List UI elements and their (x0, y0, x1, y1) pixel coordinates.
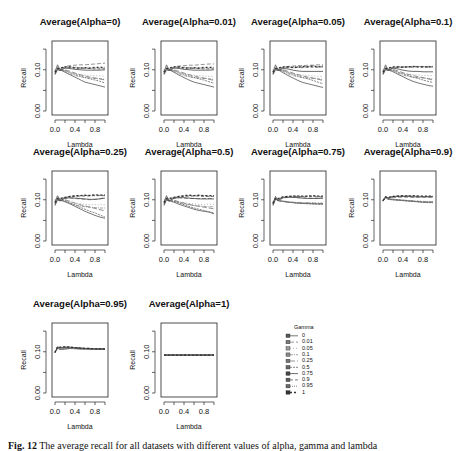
panel-title: Average(Alpha=0) (40, 16, 121, 27)
x-axis-label: Lambda (67, 423, 92, 430)
legend-label: 0.25 (302, 357, 313, 363)
legend-swatch (286, 384, 290, 388)
plot-frame (270, 41, 326, 115)
series-line (55, 63, 105, 74)
x-tick-label: 0.4 (288, 255, 298, 264)
legend-label: 0.95 (302, 382, 313, 388)
chart-panel: Average(Alpha=0.25)0.000.10Recall0.00.40… (20, 146, 127, 278)
y-tick-label: 0.10 (361, 62, 370, 77)
y-tick-label: 0.10 (33, 62, 42, 77)
y-tick-label: 0.00 (251, 104, 260, 119)
x-tick-label: 0.4 (398, 255, 408, 264)
panel-title: Average(Alpha=0.1) (364, 16, 453, 27)
x-tick-label: 0.0 (50, 407, 60, 416)
chart-panel: Average(Alpha=0.01)0.000.10Recall0.00.40… (129, 16, 236, 148)
caption-label: Fig. 12 (8, 440, 37, 451)
legend-label: 0.5 (302, 364, 310, 370)
chart-panel: Average(Alpha=0.75)0.000.10Recall0.00.40… (238, 146, 345, 278)
panel-title: Average(Alpha=0.01) (142, 16, 236, 27)
panel-title: Average(Alpha=0.5) (145, 146, 234, 157)
x-axis-label: Lambda (285, 271, 310, 278)
x-tick-label: 0.8 (199, 407, 209, 416)
series-line (383, 68, 433, 75)
x-tick-label: 0.8 (90, 125, 100, 134)
y-tick-label: 0.10 (142, 192, 151, 207)
x-tick-label: 0.8 (90, 255, 100, 264)
legend-swatch (286, 391, 290, 395)
plot-frame (270, 171, 326, 245)
plot-frame (52, 41, 108, 115)
legend-label: 0.75 (302, 370, 313, 376)
x-tick-label: 0.4 (398, 125, 408, 134)
y-axis-label: Recall (348, 198, 355, 218)
y-axis-label: Recall (20, 350, 27, 370)
y-tick-label: 0.00 (361, 104, 370, 119)
panel-title: Average(Alpha=1) (149, 298, 230, 309)
y-axis-label: Recall (129, 198, 136, 218)
chart-panel: Average(Alpha=0.9)0.000.10Recall0.00.40.… (348, 146, 452, 278)
y-axis-label: Recall (129, 350, 136, 370)
y-tick-label: 0.00 (142, 386, 151, 401)
panel-title: Average(Alpha=0.05) (251, 16, 345, 27)
y-tick-label: 0.00 (33, 386, 42, 401)
y-tick-label: 0.00 (251, 234, 260, 249)
x-tick-label: 0.4 (70, 255, 80, 264)
x-tick-label: 0.4 (179, 125, 189, 134)
chart-panel: Average(Alpha=0.5)0.000.10Recall0.00.40.… (129, 146, 233, 278)
legend-title: Gamma (294, 324, 315, 330)
x-tick-label: 0.0 (50, 125, 60, 134)
x-axis-label: Lambda (67, 271, 92, 278)
legend-swatch (286, 340, 290, 344)
legend-swatch (286, 334, 290, 338)
x-axis-label: Lambda (176, 423, 201, 430)
series-line (55, 199, 105, 218)
legend-label: 1 (302, 389, 305, 395)
x-axis-label: Lambda (395, 271, 420, 278)
y-tick-label: 0.10 (33, 192, 42, 207)
legend-label: 0.1 (302, 351, 310, 357)
y-tick-label: 0.10 (251, 192, 260, 207)
chart-panel: Average(Alpha=0.95)0.000.10Recall0.00.40… (20, 298, 127, 430)
legend-swatch (286, 353, 290, 357)
y-axis-label: Recall (238, 198, 245, 218)
plot-frame (161, 323, 217, 397)
y-axis-label: Recall (238, 68, 245, 88)
panel-title: Average(Alpha=0.75) (251, 146, 345, 157)
legend-swatch (286, 347, 290, 351)
x-tick-label: 0.4 (70, 125, 80, 134)
y-tick-label: 0.10 (142, 62, 151, 77)
legend-swatch (286, 366, 290, 370)
legend-label: 0.05 (302, 345, 313, 351)
figure-caption: Fig. 12 The average recall for all datas… (8, 440, 377, 451)
series-line (164, 69, 214, 84)
legend-label: 0 (302, 332, 305, 338)
plot-frame (52, 171, 108, 245)
caption-text: The average recall for all datasets with… (39, 440, 377, 451)
y-axis-label: Recall (20, 198, 27, 218)
y-tick-label: 0.10 (142, 344, 151, 359)
plot-frame (52, 323, 108, 397)
x-tick-label: 0.8 (90, 407, 100, 416)
series-line (273, 67, 323, 79)
y-tick-label: 0.10 (361, 192, 370, 207)
plot-frame (380, 171, 436, 245)
x-tick-label: 0.8 (308, 125, 318, 134)
panel-title: Average(Alpha=0.25) (33, 146, 127, 157)
x-tick-label: 0.4 (179, 255, 189, 264)
x-tick-label: 0.0 (378, 255, 388, 264)
x-tick-label: 0.0 (50, 255, 60, 264)
y-tick-label: 0.00 (142, 104, 151, 119)
panel-title: Average(Alpha=0.95) (33, 298, 127, 309)
x-tick-label: 0.0 (268, 255, 278, 264)
x-tick-label: 0.4 (70, 407, 80, 416)
x-tick-label: 0.8 (199, 125, 209, 134)
y-tick-label: 0.10 (251, 62, 260, 77)
series-line (164, 199, 214, 213)
y-tick-label: 0.00 (33, 104, 42, 119)
legend-label: 0.01 (302, 338, 313, 344)
legend-swatch (286, 378, 290, 382)
chart-panel: Average(Alpha=1)0.000.10Recall0.00.40.8L… (129, 298, 229, 430)
plot-frame (161, 41, 217, 115)
y-axis-label: Recall (348, 68, 355, 88)
